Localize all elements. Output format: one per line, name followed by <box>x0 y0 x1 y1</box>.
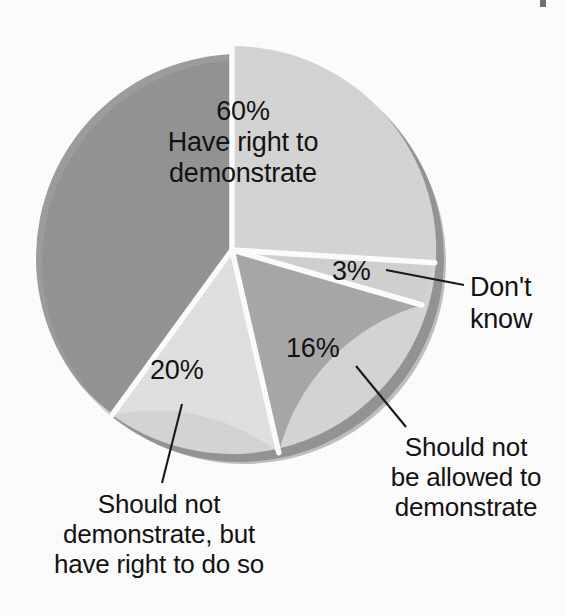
slice-percent-should-not-demonstrate: 20% <box>150 355 203 386</box>
slice-label-dont-know: Don't know <box>470 272 566 336</box>
slice-label-should-not-be-allowed-to-demonstrate: Should not be allowed to demonstrate <box>366 432 566 522</box>
scan-artifact-mark <box>540 0 546 7</box>
slice-label-have-right-to-demonstrate: 60% Have right to demonstrate <box>118 96 368 188</box>
slice-percent-should-not-be-allowed: 16% <box>286 333 339 364</box>
pie-chart-figure: 60% Have right to demonstrate 3% Don't k… <box>0 0 566 616</box>
slice-percent-dont-know: 3% <box>332 256 371 287</box>
slice-label-should-not-demonstrate-but-have-right: Should not demonstrate, but have right t… <box>6 489 312 579</box>
